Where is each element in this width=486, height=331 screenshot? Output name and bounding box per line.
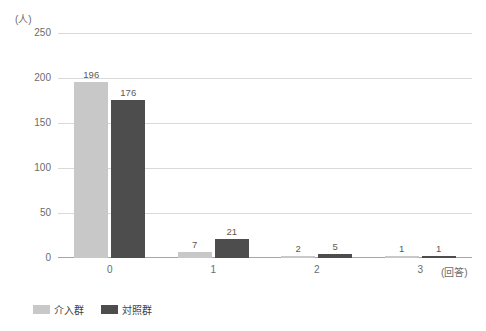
legend-item: 介入群 <box>33 302 84 317</box>
legend: 介入群対照群 <box>33 302 152 317</box>
legend-swatch <box>33 305 50 314</box>
bar-group: 11 <box>385 33 456 258</box>
legend-item: 対照群 <box>101 302 152 317</box>
bar <box>385 256 419 258</box>
bar-group: 196176 <box>74 33 145 258</box>
y-axis-tick-label: 50 <box>5 207 51 218</box>
bar-value-label: 1 <box>399 243 404 254</box>
bar <box>178 252 212 258</box>
legend-label: 対照群 <box>122 302 152 317</box>
bar <box>74 82 108 258</box>
y-axis-tick-label: 200 <box>5 72 51 83</box>
bar-value-label: 21 <box>226 226 237 237</box>
x-axis-unit-label: (回答) <box>441 264 468 279</box>
x-axis-tick-label: 0 <box>107 264 113 275</box>
bar-group: 25 <box>281 33 352 258</box>
bar-value-label: 196 <box>83 69 99 80</box>
bar <box>422 256 456 258</box>
bar-groups: 1961767212511 <box>58 33 472 258</box>
bar <box>281 256 315 258</box>
clipped-caption <box>0 326 486 331</box>
bar <box>215 239 249 258</box>
y-axis-tick-label: 150 <box>5 117 51 128</box>
bar-value-label: 176 <box>120 87 136 98</box>
legend-swatch <box>101 305 118 314</box>
bar-value-label: 2 <box>296 243 301 254</box>
bar <box>111 100 145 258</box>
y-axis-unit-label: (人) <box>15 11 32 26</box>
plot-area: 0501001502002501961767212511 <box>58 33 472 258</box>
bar-value-label: 7 <box>192 239 197 250</box>
bar-chart: (人) 0501001502002501961767212511 0123 (回… <box>0 0 486 331</box>
bar-value-label: 5 <box>333 241 338 252</box>
y-axis-tick-label: 100 <box>5 162 51 173</box>
legend-label: 介入群 <box>54 302 84 317</box>
x-axis-tick-label: 1 <box>210 264 216 275</box>
y-axis-tick-label: 0 <box>5 252 51 263</box>
x-axis-tick-label: 2 <box>314 264 320 275</box>
x-axis-tick-label: 3 <box>417 264 423 275</box>
bar-value-label: 1 <box>436 243 441 254</box>
bar <box>318 254 352 259</box>
bar-group: 721 <box>178 33 249 258</box>
y-axis-tick-label: 250 <box>5 27 51 38</box>
